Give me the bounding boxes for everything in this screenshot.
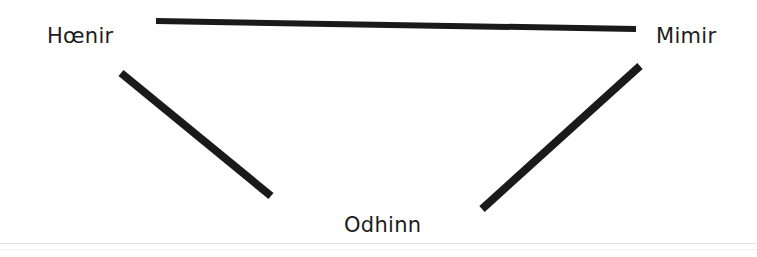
edge-hoenir-odhinn [121,73,271,196]
edge-odhinn-mimir [482,66,640,209]
node-label-mimir: Mimir [656,26,716,47]
diagram-canvas: Hœnir Mimir Odhinn [0,0,757,257]
scan-edge-line-secondary [0,249,757,250]
scan-edge-line [0,243,757,244]
node-label-odhinn: Odhinn [344,215,421,236]
edge-hoenir-mimir [156,21,636,29]
node-label-hoenir: Hœnir [47,26,114,47]
